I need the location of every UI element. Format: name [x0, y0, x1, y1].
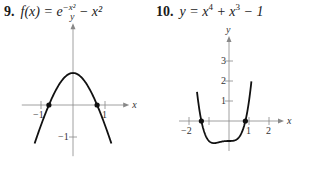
- x-tick-label: 1: [246, 125, 251, 136]
- x-tick-label: −2: [181, 125, 192, 136]
- plots-canvas: xy−11−1xy−212123: [0, 0, 309, 170]
- x-tick-label: −1: [33, 109, 44, 120]
- function-curve: [197, 81, 251, 143]
- y-tick-label: 1: [221, 95, 226, 106]
- x-intercept-point: [46, 102, 51, 107]
- y-axis-label: y: [69, 11, 75, 22]
- x-axis-label: x: [286, 115, 292, 126]
- y-tick-label: −1: [58, 131, 69, 142]
- x-axis-arrow-icon: [123, 103, 129, 108]
- x-tick-label: 2: [266, 125, 271, 136]
- y-axis-arrow-icon: [227, 36, 232, 42]
- x-axis-label: x: [131, 99, 137, 110]
- y-tick-label: 2: [221, 75, 226, 86]
- x-axis-arrow-icon: [278, 119, 284, 124]
- x-intercept-point: [94, 102, 99, 107]
- y-tick-label: 3: [221, 55, 226, 66]
- y-axis-label: y: [225, 24, 231, 35]
- y-axis-arrow-icon: [71, 23, 76, 29]
- x-intercept-point: [243, 118, 248, 123]
- x-intercept-point: [199, 118, 204, 123]
